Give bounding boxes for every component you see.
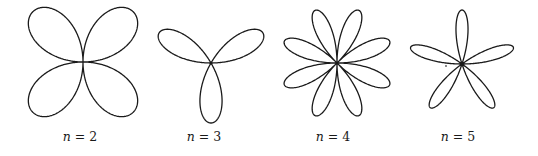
rose-curve-path	[411, 10, 514, 108]
label-variable: n	[316, 129, 324, 144]
label-variable: n	[63, 129, 71, 144]
stray-dot	[445, 65, 447, 67]
rose-curve-n3	[158, 29, 264, 123]
label-n5: n = 5	[418, 129, 498, 144]
label-n2: n = 2	[40, 129, 120, 144]
label-n3: n = 3	[164, 129, 244, 144]
rose-curve-n2	[28, 7, 137, 116]
label-value: = 5	[449, 129, 475, 144]
rose-curve-n4	[284, 10, 390, 116]
rose-curve-path	[158, 29, 264, 123]
rose-curve-n5	[411, 10, 514, 108]
label-n4: n = 4	[293, 129, 373, 144]
rose-curve-path	[28, 7, 137, 116]
label-value: = 2	[71, 129, 97, 144]
label-value: = 3	[195, 129, 221, 144]
label-variable: n	[187, 129, 195, 144]
rose-curve-path	[284, 10, 390, 116]
label-value: = 4	[324, 129, 350, 144]
label-variable: n	[441, 129, 449, 144]
